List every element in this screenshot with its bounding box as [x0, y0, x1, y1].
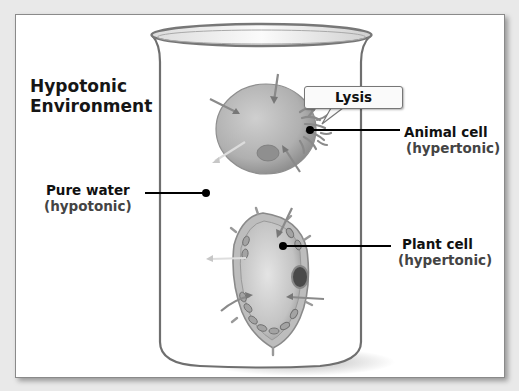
plant-cell-text: Plant cell	[398, 236, 492, 252]
nucleus-icon	[292, 266, 308, 288]
pure-water-subtext: (hypotonic)	[44, 198, 132, 214]
pure-water-text: Pure water	[44, 182, 132, 198]
lysis-callout: Lysis	[304, 86, 403, 109]
title-line-2: Environment	[30, 96, 152, 116]
animal-cell-subtext: (hypertonic)	[404, 140, 500, 156]
title-line-1: Hypotonic	[30, 76, 152, 96]
plant-cell-subtext: (hypertonic)	[398, 252, 492, 268]
pure-water-label: Pure water (hypotonic)	[44, 182, 132, 214]
nucleus-icon	[257, 145, 279, 161]
plant-cell-label: Plant cell (hypertonic)	[398, 236, 492, 268]
animal-cell-text: Animal cell	[404, 124, 500, 140]
animal-cell-label: Animal cell (hypertonic)	[404, 124, 500, 156]
lysis-label: Lysis	[335, 89, 372, 105]
diagram-title: Hypotonic Environment	[30, 76, 152, 116]
